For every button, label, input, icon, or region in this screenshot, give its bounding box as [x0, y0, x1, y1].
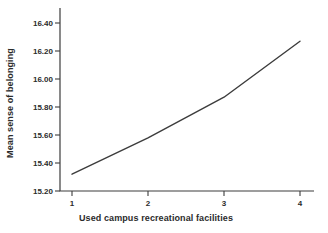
- axes: [60, 8, 314, 191]
- x-tick-label: 1: [70, 199, 75, 208]
- y-tick-label: 16.20: [33, 47, 54, 56]
- y-tick-label: 15.20: [33, 187, 54, 196]
- x-tick-label: 2: [146, 199, 151, 208]
- y-tick-label: 16.00: [33, 75, 54, 84]
- x-tick-label: 3: [222, 199, 227, 208]
- data-line: [72, 41, 300, 174]
- y-tick-label: 15.80: [33, 103, 54, 112]
- y-tick-label: 15.60: [33, 131, 54, 140]
- y-tick-label: 15.40: [33, 159, 54, 168]
- chart-figure: Mean sense of belonging Used campus recr…: [0, 0, 328, 233]
- y-axis-title: Mean sense of belonging: [5, 48, 15, 158]
- x-tick-label: 4: [298, 199, 303, 208]
- y-tick-label: 16.40: [33, 19, 54, 28]
- x-axis-title: Used campus recreational facilities: [79, 213, 233, 223]
- line-chart: Mean sense of belonging Used campus recr…: [0, 0, 328, 233]
